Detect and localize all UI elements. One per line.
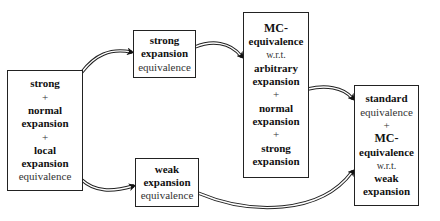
line: strong: [150, 34, 180, 47]
line: w.r.t.: [266, 48, 286, 61]
line: +: [273, 88, 279, 101]
line: expansion: [143, 176, 190, 189]
line: MC-: [375, 132, 399, 145]
line: weak: [155, 163, 179, 176]
arrow-mc-to-standard: [308, 87, 354, 100]
line: expansion: [252, 155, 299, 168]
node-mc-arbitrary: MC- equivalence w.r.t. arbitrary expansi…: [243, 12, 309, 178]
arrow-strong-to-mc: [195, 43, 243, 58]
line: normal: [259, 102, 293, 115]
line: strong: [261, 142, 291, 155]
node-strong-expansion: strong expansion equivalence: [133, 30, 196, 78]
line: weak: [374, 172, 398, 185]
line: equivalence: [360, 106, 413, 119]
line: expansion: [252, 115, 299, 128]
line: w.r.t.: [377, 159, 397, 172]
arrow-combined-to-strong: [82, 51, 133, 72]
line: normal: [28, 104, 62, 117]
node-standard-mc-weak: standard equivalence + MC- equivalence w…: [354, 85, 419, 206]
line: equivalence: [141, 189, 194, 202]
line: local: [34, 144, 56, 157]
line: equivalence: [359, 146, 414, 159]
line: expansion: [141, 47, 188, 60]
line: equivalence: [249, 35, 304, 48]
line: +: [273, 128, 279, 141]
line: expansion: [252, 75, 299, 88]
line: MC-: [264, 22, 288, 35]
line: arbitrary: [254, 62, 298, 75]
arrow-combined-to-weak: [82, 180, 135, 190]
line: +: [42, 91, 48, 104]
line: +: [383, 119, 389, 132]
line: +: [42, 131, 48, 144]
line: expansion: [21, 157, 68, 170]
line: expansion: [363, 185, 410, 198]
line: equivalence: [138, 61, 191, 74]
line: expansion: [21, 117, 68, 130]
line: equivalence: [19, 170, 72, 183]
line: strong: [30, 77, 60, 90]
node-weak-expansion: weak expansion equivalence: [135, 158, 199, 207]
node-combined: strong + normal expansion + local expans…: [7, 70, 83, 191]
line: standard: [365, 92, 407, 105]
